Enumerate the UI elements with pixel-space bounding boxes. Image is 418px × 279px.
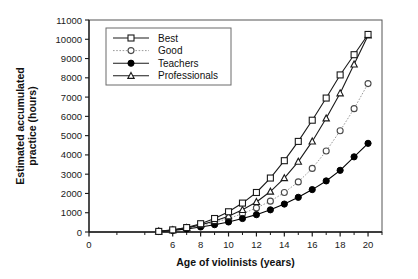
data-point-open-square: [212, 216, 218, 222]
x-tick-label: 12: [251, 239, 262, 250]
data-point-filled-circle: [253, 212, 259, 218]
legend-label: Teachers: [158, 58, 199, 69]
chart-figure: 0100020003000400050006000700080009000100…: [0, 0, 418, 279]
data-point-filled-circle: [351, 154, 357, 160]
x-axis-title: Age of violinists (years): [176, 256, 294, 268]
y-tick-label: 9000: [61, 53, 82, 64]
data-point-open-square: [365, 31, 371, 37]
y-tick-label: 0: [77, 227, 82, 238]
y-tick-label: 7000: [61, 92, 82, 103]
x-tick-label: 14: [279, 239, 290, 250]
legend-label: Professionals: [158, 70, 218, 81]
data-point-open-square: [170, 227, 176, 233]
data-point-filled-circle: [281, 201, 287, 207]
data-point-open-square: [323, 95, 329, 101]
data-point-filled-circle: [295, 194, 301, 200]
y-tick-label: 1000: [61, 207, 82, 218]
data-point-filled-circle: [225, 219, 231, 225]
y-tick-label: 2000: [61, 188, 82, 199]
y-tick-label: 4000: [61, 149, 82, 160]
data-point-open-circle: [267, 198, 273, 204]
x-tick-label: 20: [363, 239, 374, 250]
data-point-open-circle: [281, 189, 287, 195]
data-point-open-circle: [365, 81, 371, 87]
data-point-open-circle: [309, 165, 315, 171]
line-chart-canvas: 0100020003000400050006000700080009000100…: [0, 0, 418, 279]
y-tick-label: 11000: [56, 15, 82, 26]
y-tick-label: 5000: [61, 130, 82, 141]
data-point-open-square: [184, 225, 190, 231]
data-point-open-circle: [128, 48, 134, 54]
x-tick-label: 18: [335, 239, 346, 250]
y-tick-label: 6000: [61, 111, 82, 122]
y-tick-label: 10000: [56, 34, 82, 45]
data-point-open-square: [281, 158, 287, 164]
data-point-filled-circle: [309, 187, 315, 193]
chart-legend: BestGoodTeachersProfessionals: [106, 28, 231, 85]
data-point-open-circle: [253, 205, 259, 211]
data-point-filled-circle: [239, 215, 245, 221]
data-point-open-square: [267, 175, 273, 181]
y-tick-label: 8000: [61, 72, 82, 83]
data-point-open-square: [337, 72, 343, 78]
data-point-open-circle: [351, 106, 357, 112]
data-point-filled-circle: [365, 140, 371, 146]
data-point-open-circle: [295, 179, 301, 185]
legend-label: Best: [158, 33, 178, 44]
y-tick-label: 3000: [61, 169, 82, 180]
data-point-open-square: [253, 189, 259, 195]
data-point-open-square: [239, 200, 245, 206]
data-point-open-square: [198, 221, 204, 227]
data-point-open-square: [226, 209, 232, 215]
data-point-filled-circle: [128, 60, 134, 66]
data-point-open-circle: [337, 128, 343, 134]
legend-label: Good: [158, 45, 182, 56]
data-point-filled-circle: [337, 167, 343, 173]
x-tick-label: 6: [170, 239, 175, 250]
data-point-filled-circle: [323, 178, 329, 184]
x-tick-label: 16: [307, 239, 318, 250]
data-point-open-square: [309, 117, 315, 123]
x-tick-label: 8: [198, 239, 203, 250]
data-point-open-square: [156, 228, 162, 234]
data-point-filled-circle: [267, 207, 273, 213]
data-point-open-square: [295, 138, 301, 144]
x-tick-label: 0: [86, 239, 91, 250]
data-point-open-square: [351, 52, 357, 58]
data-point-open-square: [128, 35, 134, 41]
data-point-open-circle: [323, 148, 329, 154]
x-tick-label: 10: [223, 239, 234, 250]
